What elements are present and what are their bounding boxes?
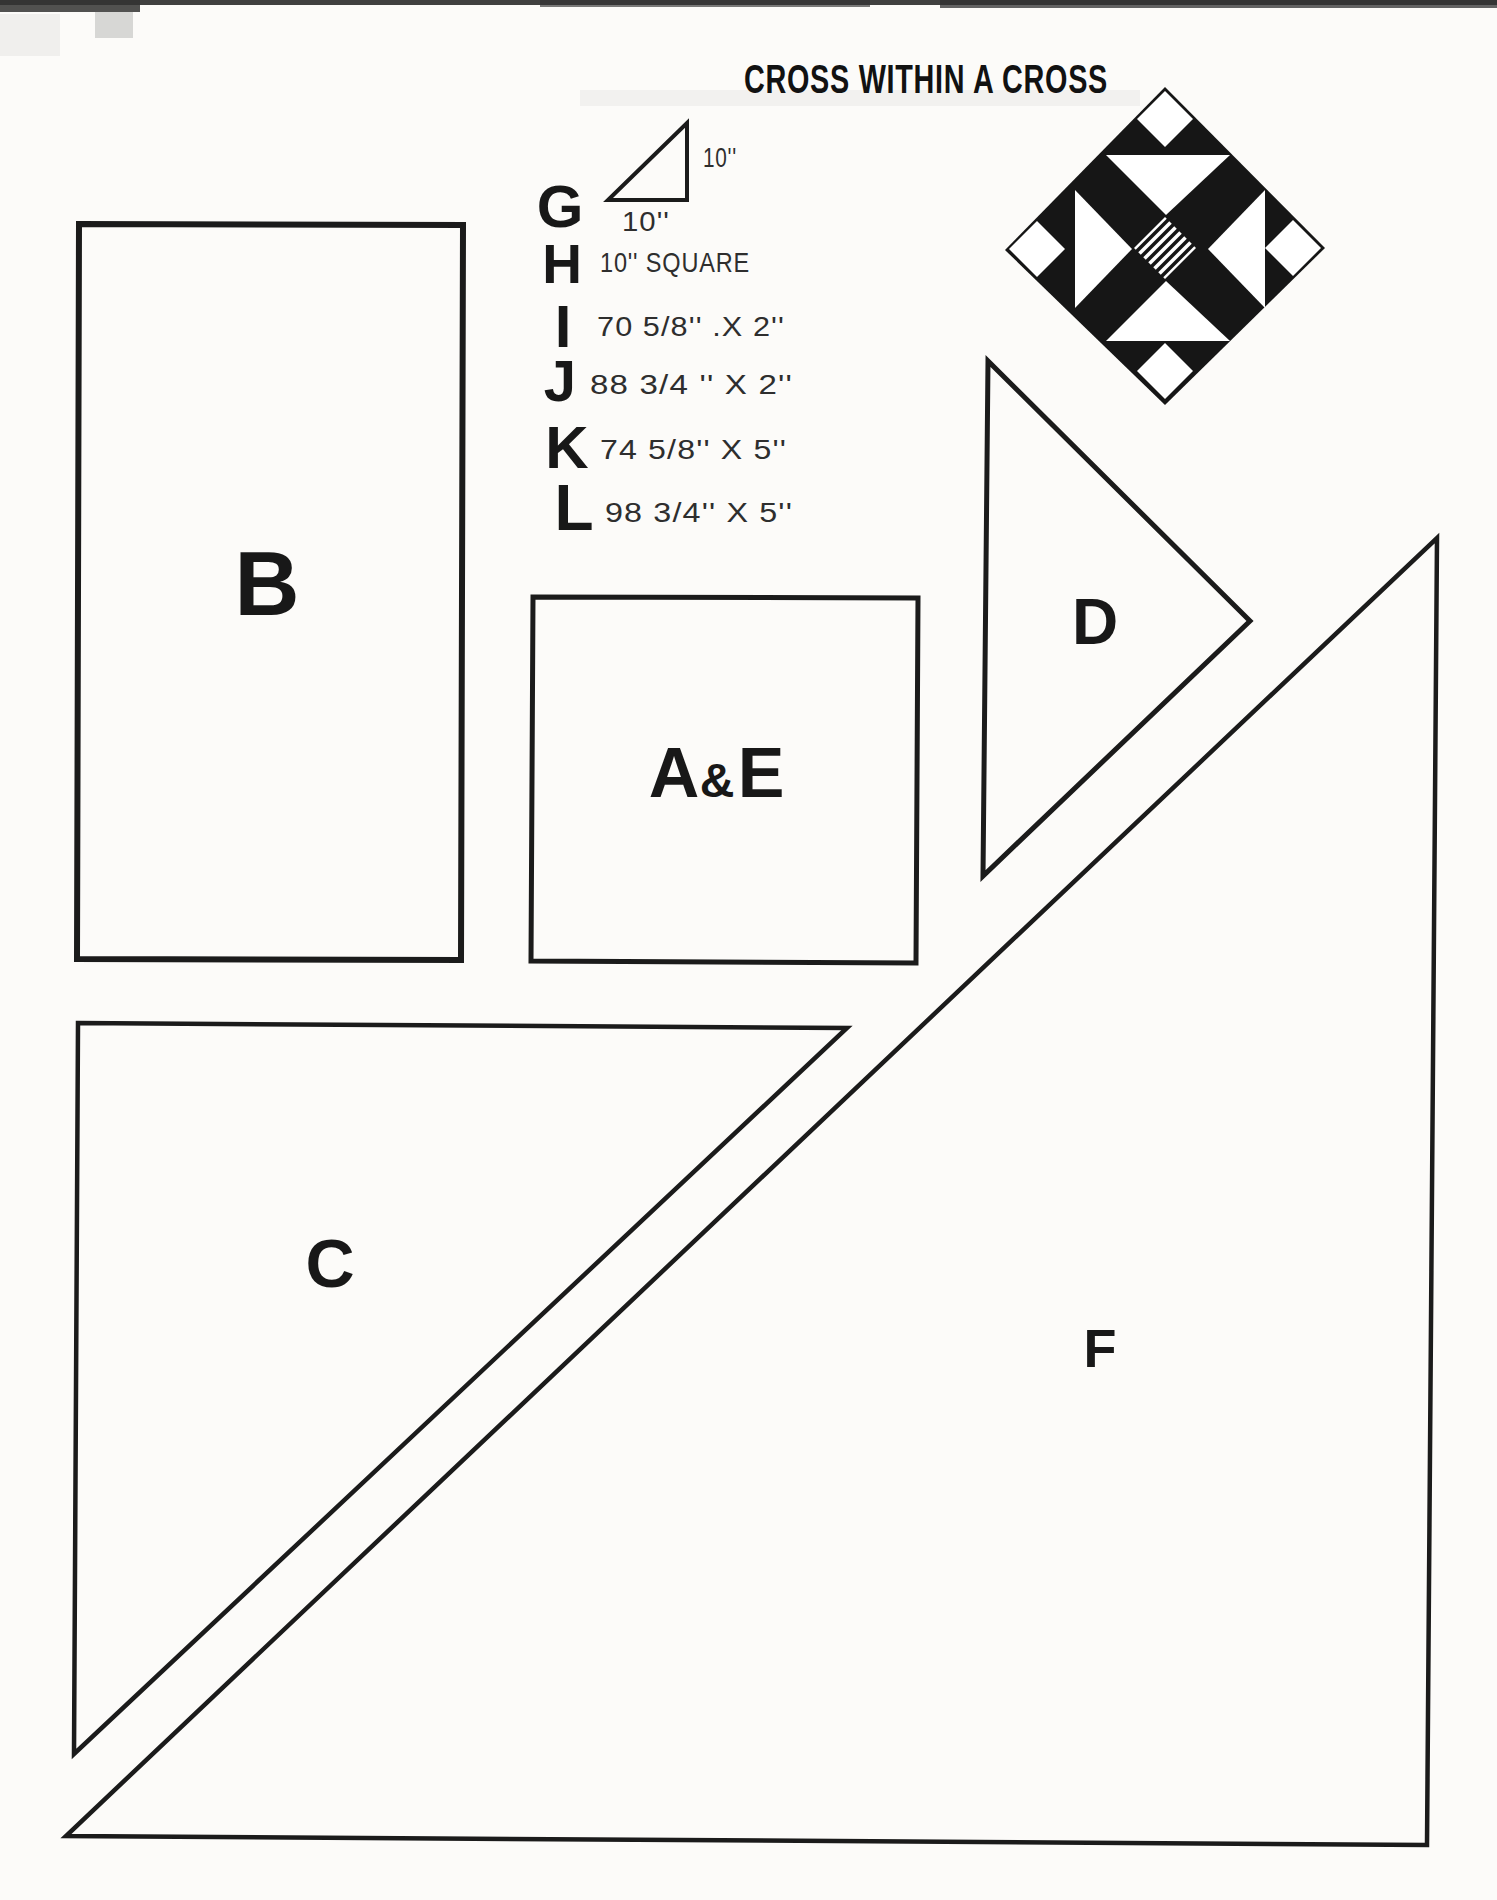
dim-g-vertical: 10'' — [703, 142, 737, 173]
legend-letter-h: H — [542, 233, 582, 295]
template-pieces: B A & E D C F — [66, 224, 1437, 1845]
piece-d-label: D — [1072, 586, 1118, 658]
quilt-block-illustration — [1005, 87, 1325, 405]
piece-c-label: C — [305, 1225, 354, 1301]
dim-l: 98 3/4'' X 5'' — [605, 497, 793, 528]
scan-smudge — [540, 0, 870, 7]
piece-ae-label-a: A — [649, 734, 700, 812]
scan-smudge — [940, 0, 1497, 8]
piece-ae-label-e: E — [738, 734, 785, 812]
dim-g-horizontal: 10'' — [622, 206, 670, 237]
pattern-page: CROSS WITHIN A CROSS — [0, 0, 1497, 1900]
legend-letter-l: L — [554, 472, 593, 544]
piece-b-label: B — [235, 534, 300, 634]
piece-ae-label: A & E — [649, 734, 785, 812]
dim-h: 10'' SQUARE — [600, 247, 750, 278]
scan-smudge — [95, 10, 133, 38]
piece-g-outline — [608, 123, 687, 200]
dim-i: 70 5/8'' .X 2'' — [597, 311, 785, 342]
page-title: CROSS WITHIN A CROSS — [744, 57, 1108, 101]
ampersand: & — [700, 754, 735, 807]
legend: G 10'' 10'' H 10'' SQUARE I 70 5/8'' .X … — [537, 123, 793, 544]
piece-c-outline — [74, 1023, 847, 1754]
legend-letter-j: J — [544, 348, 576, 413]
pattern-drawing: CROSS WITHIN A CROSS — [0, 0, 1497, 1900]
legend-letter-g: G — [537, 173, 584, 240]
dim-k: 74 5/8'' X 5'' — [600, 434, 787, 465]
dim-j: 88 3/4 '' X 2'' — [590, 369, 793, 400]
piece-f-label: F — [1084, 1318, 1117, 1378]
scan-smudge — [0, 14, 60, 56]
legend-letter-k: K — [545, 414, 588, 481]
